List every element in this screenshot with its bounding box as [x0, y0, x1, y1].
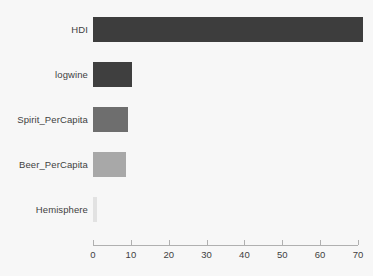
x-axis-tick: [320, 240, 321, 245]
x-axis-tick: [93, 240, 94, 245]
category-label-beer-percapita: Beer_PerCapita: [19, 152, 88, 177]
x-axis-tick: [358, 240, 359, 245]
x-axis-tick: [244, 240, 245, 245]
x-axis-tick-label: 40: [224, 249, 264, 260]
bar-row: Hemisphere: [0, 197, 373, 222]
category-label-spirit-percapita: Spirit_PerCapita: [17, 107, 88, 132]
bar-logwine: [93, 62, 132, 87]
x-axis-tick-label: 70: [338, 249, 373, 260]
x-axis-tick-label: 20: [149, 249, 189, 260]
x-axis-tick-label: 50: [262, 249, 302, 260]
x-axis-tick: [131, 240, 132, 245]
x-axis-tick: [169, 240, 170, 245]
bar-row: HDI: [0, 17, 373, 42]
bar-chart: HDI logwine Spirit_PerCapita Beer_PerCap…: [0, 0, 373, 276]
plot-area: HDI logwine Spirit_PerCapita Beer_PerCap…: [0, 0, 373, 276]
bar-row: Beer_PerCapita: [0, 152, 373, 177]
x-axis-tick: [282, 240, 283, 245]
x-axis-tick: [207, 240, 208, 245]
bar-beer-percapita: [93, 152, 126, 177]
category-label-hemisphere: Hemisphere: [36, 197, 88, 222]
bar-hdi: [93, 17, 363, 42]
x-axis-tick-label: 0: [73, 249, 113, 260]
bar-hemisphere: [93, 197, 97, 222]
category-label-logwine: logwine: [55, 62, 88, 87]
x-axis-line: [93, 245, 358, 246]
bar-row: logwine: [0, 62, 373, 87]
bar-spirit-percapita: [93, 107, 128, 132]
category-label-hdi: HDI: [71, 17, 88, 42]
bar-row: Spirit_PerCapita: [0, 107, 373, 132]
x-axis-tick-label: 10: [111, 249, 151, 260]
x-axis-tick-label: 30: [187, 249, 227, 260]
x-axis-tick-label: 60: [300, 249, 340, 260]
